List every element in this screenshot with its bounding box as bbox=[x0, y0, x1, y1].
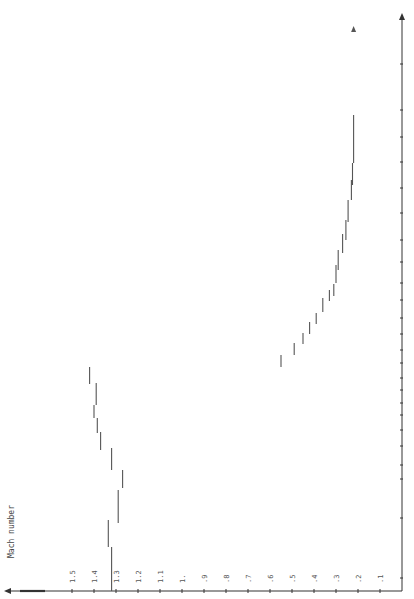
mach-tick-label: .5 bbox=[289, 575, 297, 583]
mach-tick-label: 1. bbox=[179, 575, 187, 583]
mach-tick-label: 1.5 bbox=[69, 570, 77, 583]
supersonic-branch bbox=[90, 367, 123, 591]
mach-tick-label: 1.2 bbox=[135, 570, 143, 583]
mach-tick-label: .7 bbox=[245, 575, 253, 583]
y-axis-title: Mach number bbox=[7, 505, 16, 558]
mach-tick-label: 1.3 bbox=[113, 570, 121, 583]
mach-tick-label: 1.1 bbox=[157, 570, 165, 583]
subsonic-branch bbox=[281, 115, 354, 367]
mach-tick-label: .8 bbox=[223, 575, 231, 583]
mach-tick-label: .6 bbox=[267, 575, 275, 583]
mach-tick-label: .1 bbox=[377, 575, 385, 583]
mach-tick-label: .9 bbox=[201, 575, 209, 583]
data-series bbox=[90, 26, 357, 591]
mach-axis-arrow-icon bbox=[4, 588, 11, 594]
time-axis-arrow-icon bbox=[399, 13, 405, 20]
mach-tick-label: .4 bbox=[311, 575, 319, 583]
mach-tick-label: .2 bbox=[355, 575, 363, 583]
chart-axes bbox=[4, 13, 405, 594]
series-end-arrow-icon bbox=[351, 26, 356, 32]
mach-number-chart: 1.51.41.31.21.11..9.8.7.6.5.4.3.2.1 Mach… bbox=[0, 0, 414, 599]
mach-tick-label: 1.4 bbox=[91, 570, 99, 583]
mach-tick-label: .3 bbox=[333, 575, 341, 583]
tick-labels: 1.51.41.31.21.11..9.8.7.6.5.4.3.2.1 bbox=[69, 570, 385, 583]
